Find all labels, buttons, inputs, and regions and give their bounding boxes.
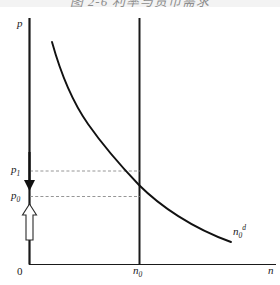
y-tick-label-p0: p0 bbox=[11, 190, 20, 201]
quantity-increase-arrow bbox=[23, 204, 37, 240]
price-decrease-arrow bbox=[24, 152, 35, 191]
x-axis-label: n bbox=[268, 265, 274, 276]
demand-curve bbox=[52, 42, 231, 242]
curve-superscript: d bbox=[242, 223, 246, 232]
y-tick-label-p1: p1 bbox=[11, 164, 20, 175]
p1-subscript: 1 bbox=[17, 169, 21, 178]
p0-subscript: 0 bbox=[17, 195, 21, 204]
plot-canvas bbox=[0, 0, 280, 285]
demand-curve-label: n0d bbox=[233, 226, 246, 237]
origin-label: 0 bbox=[17, 266, 23, 277]
x-tick-subscript: 0 bbox=[139, 270, 143, 279]
curve-subscript: 0 bbox=[239, 231, 243, 240]
x-tick-label-n0: n0 bbox=[133, 265, 142, 276]
y-axis-label: p bbox=[17, 18, 23, 29]
economics-demand-figure: 图 2-6 利率与货币需求 p 0 n n0 bbox=[0, 0, 280, 285]
